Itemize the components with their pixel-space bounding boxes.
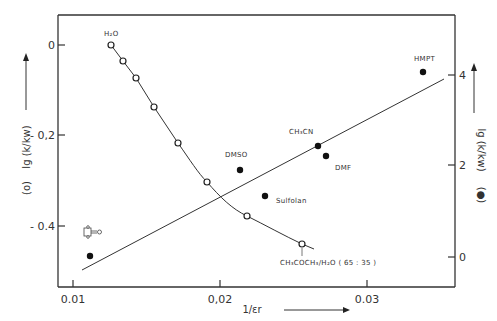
open-series-points — [108, 42, 305, 247]
data-point-filled — [87, 253, 93, 259]
data-point-filled — [323, 153, 329, 159]
left-tick-label: - 0,2 — [30, 129, 55, 142]
carbonate-structure-icon — [84, 226, 102, 239]
data-point-open — [120, 58, 126, 64]
label-hmpt: HMPT — [414, 55, 435, 63]
left-tick-label: - 0.4 — [30, 220, 55, 233]
right-tick-label: 2 — [459, 159, 466, 172]
data-point-filled — [315, 143, 321, 149]
data-point-filled — [420, 69, 426, 75]
data-point-open — [175, 140, 181, 146]
linear-fit-line — [82, 79, 444, 270]
left-axis-title: lg (k/kw) — [21, 125, 32, 168]
label-h2o: H₂O — [104, 30, 119, 38]
right-up-arrow-icon — [471, 63, 477, 113]
left-up-arrow-icon — [23, 53, 29, 110]
open-series-curve — [111, 45, 314, 249]
x-arrow-icon — [284, 307, 350, 313]
label-ch3cn: CH₃CN — [289, 128, 314, 136]
data-point-open — [299, 241, 305, 247]
right-marker-key: (●) — [476, 187, 487, 204]
left-marker-key: (o) — [21, 181, 32, 195]
right-tick-label: 4 — [459, 69, 466, 82]
x-tick-label: 0.01 — [61, 293, 86, 306]
x-tick-label: 0,02 — [208, 293, 233, 306]
data-point-filled — [237, 167, 243, 173]
left-tick-label: 0 — [48, 39, 55, 52]
label-dmso: DMSO — [225, 151, 248, 159]
data-point-open — [244, 213, 250, 219]
data-point-open — [133, 75, 139, 81]
filled-series-points — [87, 69, 426, 259]
chart: 0.01 0,02 0.03 1/εr 0 - 0,2 - 0.4 lg (k/… — [0, 0, 497, 321]
x-axis: 0.01 0,02 0.03 1/εr — [61, 280, 380, 315]
data-point-open — [204, 179, 210, 185]
x-tick-label: 0.03 — [355, 293, 380, 306]
data-point-open — [151, 104, 157, 110]
label-acetone-water: CH₃COCH₃/H₂O ( 65 : 35 ) — [280, 259, 376, 267]
data-point-open — [108, 42, 114, 48]
right-axis-title: lg (k/kw) — [476, 128, 487, 171]
data-point-filled — [262, 193, 268, 199]
label-sulfolan: Sulfolan — [276, 197, 307, 205]
x-axis-title: 1/εr — [242, 304, 262, 315]
plot-frame — [58, 15, 455, 287]
right-tick-label: 0 — [459, 251, 466, 264]
right-y-axis: 4 2 0 lg (k/kw) (●) — [448, 63, 487, 264]
label-dmf: DMF — [335, 164, 351, 172]
